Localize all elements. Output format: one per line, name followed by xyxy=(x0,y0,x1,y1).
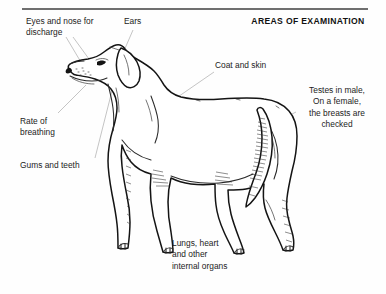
label-ears: Ears xyxy=(124,16,141,27)
label-gums-and-teeth: Gums and teeth xyxy=(20,160,80,171)
leader-rate-breathing xyxy=(58,85,86,113)
diagram-page: AREAS OF EXAMINATION xyxy=(0,0,386,294)
label-lungs-heart-organs: Lungs, heart and other internal organs xyxy=(172,238,227,272)
label-testes-breasts: Testes in male, On a female, the breasts… xyxy=(296,85,378,131)
dog-body xyxy=(66,45,297,254)
label-eyes-nose: Eyes and nose for discharge xyxy=(26,16,94,39)
label-coat-and-skin: Coat and skin xyxy=(215,60,266,71)
label-rate-of-breathing: Rate of breathing xyxy=(20,116,55,139)
